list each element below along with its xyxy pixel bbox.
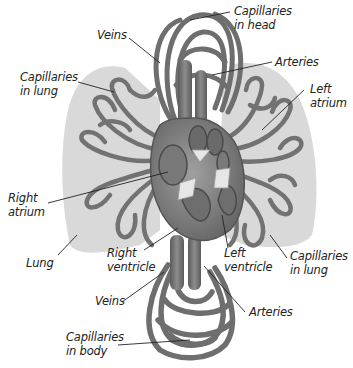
label-right-atrium: Right atrium — [8, 191, 45, 219]
label-veins-top: Veins — [97, 28, 127, 42]
heart — [151, 118, 245, 240]
label-arteries-bottom: Arteries — [249, 305, 293, 319]
label-capillaries-lung-right: Capillaries in lung — [290, 249, 348, 277]
label-left-atrium: Left atrium — [310, 82, 347, 110]
label-right-ventricle: Right ventricle — [107, 246, 155, 274]
label-capillaries-head: Capillaries in head — [234, 4, 292, 32]
label-capillaries-lung-left: Capillaries in lung — [20, 70, 78, 98]
circulatory-diagram: Veins Capillaries in head Arteries Capil… — [0, 0, 353, 368]
label-left-ventricle: Left ventricle — [224, 246, 272, 274]
label-arteries-top: Arteries — [275, 55, 319, 69]
label-capillaries-body: Capillaries in body — [66, 330, 124, 358]
label-veins-bottom: Veins — [95, 294, 125, 308]
label-lung: Lung — [26, 256, 53, 270]
